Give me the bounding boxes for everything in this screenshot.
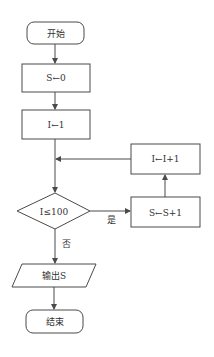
init-i-node: I←1	[22, 110, 90, 139]
output-label: 输出S	[42, 270, 66, 281]
output-node: 输出S	[12, 264, 96, 287]
flowchart: 开始 S←0 I←1 I←I+1 I≤100 是 S←S+1 否	[0, 0, 214, 357]
init-i-label: I←1	[48, 120, 65, 130]
condition-node: I≤100	[17, 193, 90, 229]
no-label: 否	[62, 239, 71, 249]
start-node: 开始	[27, 22, 84, 44]
end-node: 结束	[26, 310, 83, 333]
update-s-label: S←S+1	[149, 208, 182, 218]
yes-label: 是	[107, 215, 116, 225]
update-s-node: S←S+1	[131, 197, 200, 227]
start-label: 开始	[47, 28, 65, 39]
end-label: 结束	[46, 316, 64, 327]
update-i-label: I←I+1	[152, 154, 180, 164]
init-s-label: S←0	[46, 73, 66, 83]
init-s-node: S←0	[22, 64, 90, 92]
update-i-node: I←I+1	[131, 144, 200, 174]
condition-label: I≤100	[40, 207, 69, 217]
